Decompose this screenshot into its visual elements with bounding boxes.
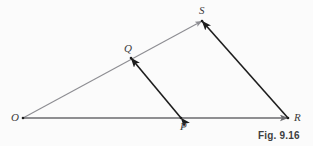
segment-layer xyxy=(23,21,288,118)
figure-canvas xyxy=(0,0,313,146)
vertex-label-q: Q xyxy=(124,43,132,54)
vertex-label-s: S xyxy=(199,5,205,16)
vertex-dot-layer xyxy=(22,20,290,120)
segment-R-to-S xyxy=(202,21,288,118)
ray-O-to-S xyxy=(23,21,202,118)
segment-P-to-Q xyxy=(131,58,181,118)
vertex-dot-p xyxy=(180,117,183,120)
geometry-figure: OPQRS Fig. 9.16 xyxy=(0,0,313,146)
figure-caption: Fig. 9.16 xyxy=(258,130,300,141)
vertex-dot-s xyxy=(201,20,204,23)
vertex-dot-o xyxy=(22,117,25,120)
vertex-label-o: O xyxy=(11,112,19,123)
vertex-dot-q xyxy=(130,57,133,60)
vertex-label-r: R xyxy=(294,112,301,123)
vertex-dot-r xyxy=(287,117,290,120)
vertex-label-p: P xyxy=(180,121,187,132)
